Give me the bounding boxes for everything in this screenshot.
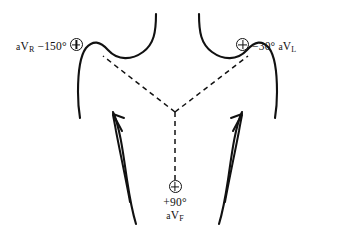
label-avl: −30°aVL: [236, 38, 296, 53]
avf-lead-letter: V: [171, 209, 180, 221]
avr-lead-name: aVR: [16, 40, 34, 52]
ecg-axis-figure: aVR−150° −30°aVL +90° aVF: [0, 0, 340, 238]
avl-lead-name: aVL: [278, 40, 296, 52]
avr-axis-dashed-line: [103, 56, 175, 112]
avf-lead-subscript: F: [179, 214, 184, 223]
avf-angle-value: +90°: [138, 196, 212, 209]
label-avf: +90° aVF: [138, 180, 212, 222]
avf-lead-name: aVF: [138, 209, 212, 222]
avl-lead-subscript: L: [291, 45, 296, 54]
circle-plus-icon: [236, 38, 249, 51]
right-neck-shoulder-outline: [199, 14, 277, 118]
avr-lead-letter: V: [20, 40, 29, 52]
circle-plus-icon: [70, 38, 83, 51]
avl-axis-dashed-line: [175, 56, 248, 112]
circle-plus-icon: [169, 180, 182, 193]
avl-angle-value: −30°: [252, 40, 275, 52]
avr-angle-value: −150°: [37, 40, 66, 52]
avr-lead-subscript: R: [29, 45, 35, 54]
label-avr: aVR−150°: [16, 38, 83, 53]
avf-symbol-row: [138, 180, 212, 195]
